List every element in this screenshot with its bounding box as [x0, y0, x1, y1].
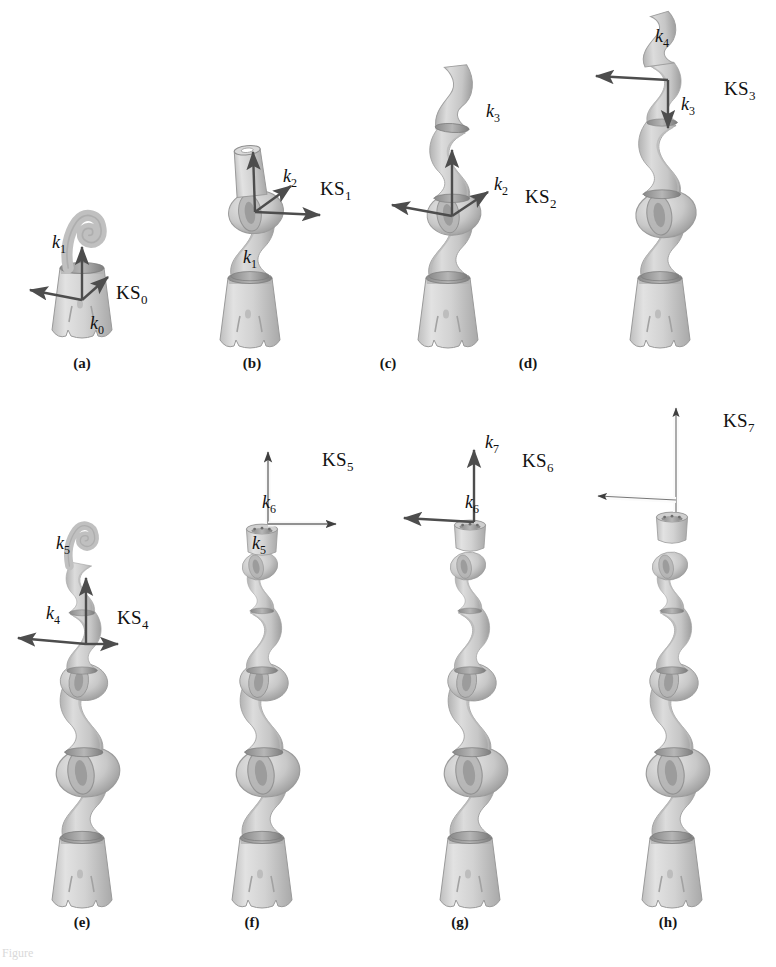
axis-label-k4-panel-e: k4 [46, 603, 60, 628]
figure-robot-kinematic-frames: k1 k0 KS0 (a) k2 k1 KS1 (b) k3 k2 KS2 (c… [0, 0, 776, 967]
panel-b-robot [220, 144, 320, 348]
frame-label-ks0: KS0 [116, 282, 148, 308]
axis-label-k7-panel-g: k7 [485, 432, 499, 457]
panel-caption-f: (f) [222, 914, 282, 931]
panel-caption-a: (a) [52, 355, 112, 372]
axis-label-k5-panel-e: k5 [56, 533, 70, 558]
axis-label-k0-panel-a: k0 [90, 313, 104, 338]
axis-label-k6-panel-g: k6 [465, 492, 479, 517]
axis-label-k3-panel-c: k3 [486, 101, 500, 126]
axis-label-k3-panel-d: k3 [681, 94, 695, 119]
axis-label-k2-panel-b: k2 [283, 166, 297, 191]
panel-caption-g: (g) [430, 914, 490, 931]
panel-caption-h: (h) [638, 914, 698, 931]
figure-caption-fragment: Figure [2, 946, 33, 961]
axis-label-k2-panel-c: k2 [494, 174, 508, 199]
axis-label-k1-panel-b: k1 [243, 247, 257, 272]
panel-h-robot [598, 408, 713, 908]
frame-label-ks1: KS1 [320, 178, 352, 204]
frame-label-ks4: KS4 [117, 607, 149, 633]
panel-g-frame-axes [404, 450, 474, 522]
frame-label-ks5: KS5 [322, 449, 354, 475]
panel-h-frame-axes [598, 408, 676, 512]
panel-e-robot [18, 526, 123, 908]
panel-caption-b: (b) [222, 355, 282, 372]
panel-f-robot [232, 452, 336, 908]
panel-g-robot [404, 450, 511, 908]
panel-caption-c: (c) [358, 355, 418, 372]
panel-d-robot [596, 11, 699, 348]
axis-label-k6-panel-f: k6 [262, 492, 276, 517]
robot-illustration-canvas [0, 0, 776, 967]
frame-label-ks3: KS3 [724, 78, 756, 104]
panel-caption-d: (d) [498, 355, 558, 372]
frame-label-ks7: KS7 [723, 410, 755, 436]
frame-label-ks2: KS2 [525, 186, 557, 212]
panel-c-robot [392, 63, 488, 348]
panel-caption-e: (e) [52, 914, 112, 931]
axis-label-k4-panel-d: k4 [655, 26, 669, 51]
axis-label-k5-panel-f: k5 [252, 533, 266, 558]
frame-label-ks6: KS6 [522, 450, 554, 476]
axis-label-k1-panel-a: k1 [52, 232, 66, 257]
